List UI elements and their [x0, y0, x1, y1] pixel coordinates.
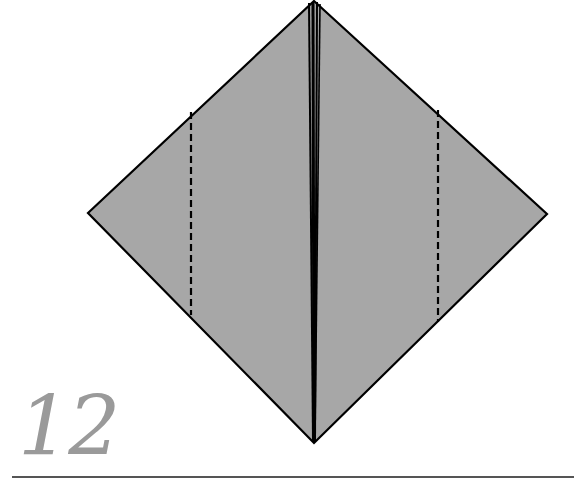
step-number: 12 [18, 386, 118, 468]
divider-rule [12, 476, 574, 478]
